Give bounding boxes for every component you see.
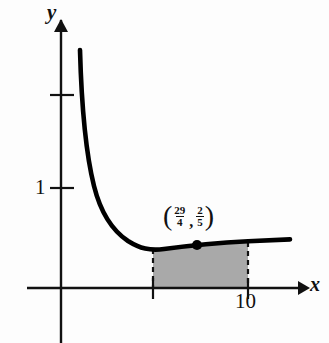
x-coordinate-fraction: 29 4 <box>173 205 186 228</box>
label-close-paren: ) <box>205 205 214 228</box>
y-tick-label-1: 1 <box>35 177 46 198</box>
point-coordinate-label: ( 29 4 , 2 5 ) <box>163 206 214 229</box>
y-coordinate-fraction: 2 5 <box>196 205 204 228</box>
x-tick-label-10: 10 <box>235 291 256 312</box>
plot-svg <box>0 0 329 343</box>
x-axis-label: x <box>310 274 320 294</box>
figure-canvas: y x 1 10 ( 29 4 , 2 5 ) <box>0 0 329 343</box>
x-coordinate-denominator: 4 <box>176 216 184 228</box>
y-axis-label: y <box>47 2 56 23</box>
marked-point-dot <box>192 240 202 250</box>
x-axis-arrowhead <box>298 281 310 295</box>
y-coordinate-numerator: 2 <box>196 205 204 216</box>
x-coordinate-numerator: 29 <box>173 205 186 216</box>
label-open-paren: ( <box>163 205 172 228</box>
y-coordinate-denominator: 5 <box>196 216 204 228</box>
label-comma: , <box>189 214 193 230</box>
